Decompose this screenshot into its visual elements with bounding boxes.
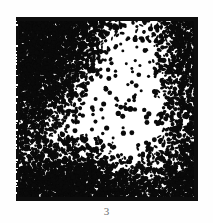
stochastic-dot-texture-canvas [16, 17, 198, 201]
stochastic-dot-texture-panel [16, 17, 198, 201]
figure-root: 3 [0, 0, 213, 223]
figure-caption: 3 [0, 204, 213, 218]
